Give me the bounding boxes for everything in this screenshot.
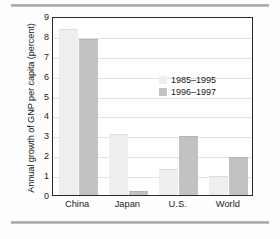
y-tick-label: 4 — [29, 111, 49, 121]
x-tick-label: U.S. — [169, 199, 187, 209]
bar-group — [59, 18, 98, 195]
bar — [129, 191, 148, 195]
bar — [159, 169, 178, 195]
bar — [209, 176, 228, 195]
bar-group — [209, 18, 248, 195]
y-tick-label: 0 — [29, 191, 49, 201]
legend-swatch-icon — [159, 76, 167, 84]
x-tick-label: World — [216, 199, 240, 209]
legend-label: 1985–1995 — [171, 75, 216, 85]
x-tick-label: China — [65, 199, 89, 209]
bar-series-layer — [53, 18, 252, 195]
bottom-divider-rule — [11, 221, 269, 224]
top-divider-rule — [11, 4, 269, 7]
bar-group — [159, 18, 198, 195]
bar — [59, 29, 78, 195]
y-tick-label: 6 — [29, 72, 49, 82]
y-tick-label: 5 — [29, 92, 49, 102]
y-tick-label: 9 — [29, 12, 49, 22]
legend-swatch-icon — [159, 88, 167, 96]
y-tick-label: 3 — [29, 131, 49, 141]
chart-legend: 1985–19951996–1997 — [159, 74, 216, 98]
x-tick-label: Japan — [115, 199, 140, 209]
chart-figure: Annual growth of GNP per capita (percent… — [0, 0, 280, 239]
bar — [229, 157, 248, 195]
legend-item: 1996–1997 — [159, 86, 216, 97]
legend-item: 1985–1995 — [159, 74, 216, 85]
plot-area — [52, 17, 253, 196]
y-tick-label: 8 — [29, 32, 49, 42]
bar-group — [109, 18, 148, 195]
legend-label: 1996–1997 — [171, 87, 216, 97]
y-tick-label: 7 — [29, 52, 49, 62]
y-tick-label: 2 — [29, 151, 49, 161]
bar — [179, 136, 198, 195]
bar — [109, 134, 128, 195]
bar — [79, 39, 98, 195]
y-tick-label: 1 — [29, 171, 49, 181]
